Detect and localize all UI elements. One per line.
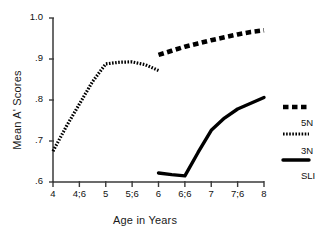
x-tick-label: 8	[252, 188, 276, 199]
legend-label-3n: 3N	[301, 145, 313, 156]
x-tick-label: 4	[41, 188, 65, 199]
y-tick-label: 1.0	[19, 11, 43, 22]
y-tick-label: .7	[19, 134, 43, 145]
x-tick-label: 5	[94, 188, 118, 199]
y-tick-label: .9	[19, 52, 43, 63]
y-axis-title: Mean A' Scores	[11, 55, 23, 165]
legend-label-sli: SLI	[301, 170, 315, 181]
x-tick-label: 5;6	[120, 188, 144, 199]
x-axis-title: Age in Years	[113, 214, 177, 226]
data-series-layer	[53, 30, 264, 176]
plot-canvas	[0, 0, 333, 240]
chart-figure: Mean A' Scores Age in Years 1.0.9.8.7.6 …	[0, 0, 333, 240]
series-line-5n	[159, 30, 265, 55]
x-tick-label: 6;6	[173, 188, 197, 199]
x-tick-label: 7	[199, 188, 223, 199]
x-tick-label: 6	[147, 188, 171, 199]
series-line-3n	[53, 62, 159, 151]
x-tick-label: 7;6	[226, 188, 250, 199]
x-tick-label: 4;6	[67, 188, 91, 199]
series-line-sli	[159, 98, 265, 176]
y-tick-label: .8	[19, 93, 43, 104]
y-tick-label: .6	[19, 175, 43, 186]
legend-label-5n: 5N	[301, 117, 313, 128]
